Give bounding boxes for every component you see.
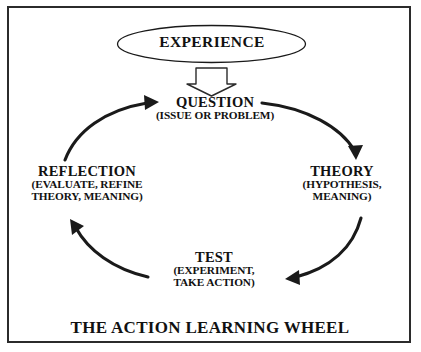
node-theory-subtitle-2: MEANING) [283, 191, 401, 203]
node-question-title: QUESTION [125, 95, 305, 110]
node-test-title: TEST [150, 250, 278, 265]
node-reflection-subtitle-2: THEORY, MEANING) [8, 191, 166, 203]
diagram-title: THE ACTION LEARNING WHEEL [10, 318, 410, 338]
node-reflection-title: REFLECTION [8, 164, 166, 179]
node-theory-title: THEORY [283, 164, 401, 179]
experience-label: EXPERIENCE [118, 33, 306, 51]
node-test-subtitle-2: TAKE ACTION) [150, 277, 278, 289]
node-question: QUESTION (ISSUE OR PROBLEM) [125, 95, 305, 122]
arc-theory-to-test [285, 218, 361, 285]
node-reflection: REFLECTION (EVALUATE, REFINE THEORY, MEA… [8, 164, 166, 203]
arc-test-to-reflection [70, 219, 148, 277]
action-learning-wheel-diagram: EXPERIENCE QUESTION (ISSUE OR PROBLEM) T… [0, 0, 421, 352]
node-test: TEST (EXPERIMENT, TAKE ACTION) [150, 250, 278, 289]
node-theory: THEORY (HYPOTHESIS, MEANING) [283, 164, 401, 203]
block-arrow-down-icon [187, 68, 236, 96]
node-question-subtitle-1: (ISSUE OR PROBLEM) [125, 110, 305, 122]
